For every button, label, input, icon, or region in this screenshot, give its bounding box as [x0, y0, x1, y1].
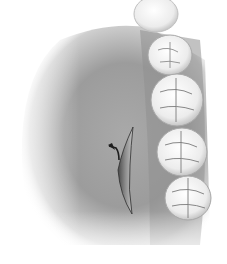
tooth-4: [165, 176, 211, 220]
palate-illustration: [0, 0, 227, 264]
tooth-1: [148, 35, 192, 75]
tooth-3: [157, 128, 207, 176]
tooth-0: [134, 0, 178, 32]
illustration-canvas: [0, 0, 227, 264]
tooth-2: [151, 74, 203, 126]
